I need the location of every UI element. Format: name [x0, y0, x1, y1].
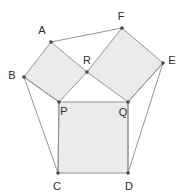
vertex-dot-e [161, 61, 165, 65]
vertex-dot-b [22, 75, 26, 79]
vertex-dot-p [57, 100, 61, 104]
vertex-label-e: E [168, 54, 175, 66]
square-center-PQDC [58, 102, 128, 173]
vertex-label-b: B [8, 69, 15, 81]
vertex-dot-a [49, 40, 53, 44]
vertex-label-f: F [118, 10, 125, 22]
geometry-diagram: A B C D E F P Q R [0, 0, 185, 196]
vertex-label-r: R [83, 54, 91, 66]
square-left-ABPR [24, 42, 87, 102]
vertex-dot-f [120, 26, 124, 30]
geometry-canvas: A B C D E F P Q R [0, 0, 185, 196]
vertex-dot-q [126, 100, 130, 104]
vertex-label-a: A [38, 24, 46, 36]
vertex-label-p: P [60, 105, 67, 117]
vertex-dot-r [85, 70, 89, 74]
vertex-label-c: C [53, 180, 61, 192]
vertex-label-d: D [125, 180, 133, 192]
square-right-RFEQ [87, 28, 163, 102]
vertex-dot-c [56, 171, 60, 175]
vertex-label-q: Q [119, 106, 128, 118]
vertex-dot-d [126, 171, 130, 175]
segment-a-f [51, 28, 122, 42]
